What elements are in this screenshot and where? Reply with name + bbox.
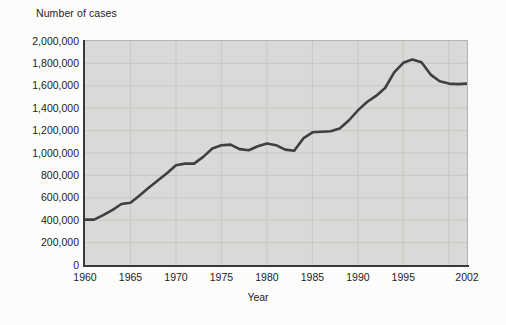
y-tick-label: 1,600,000 (0, 79, 79, 92)
x-tick-label: 1965 (111, 271, 151, 284)
cases-trend-line (85, 60, 467, 220)
cases-trend-svg (85, 41, 467, 265)
y-tick-label: 0 (0, 259, 79, 272)
plot-area (85, 41, 467, 265)
y-tick-label: 1,200,000 (0, 124, 79, 137)
y-tick-label: 1,400,000 (0, 102, 79, 115)
y-axis-title: Number of cases (36, 7, 117, 19)
x-tick-label: 1990 (338, 271, 378, 284)
y-tick-label: 1,800,000 (0, 57, 79, 70)
plot-border-right (467, 40, 468, 266)
x-axis-line (83, 265, 469, 267)
y-tick-label: 1,000,000 (0, 147, 79, 160)
y-tick-label: 2,000,000 (0, 35, 79, 48)
y-tick-label: 600,000 (0, 191, 79, 204)
x-axis-title: Year (238, 291, 278, 303)
x-tick-label: 1975 (201, 271, 241, 284)
y-tick-label: 800,000 (0, 169, 79, 182)
x-tick-label: 1995 (383, 271, 423, 284)
x-tick-label: 1960 (65, 271, 105, 284)
y-tick-label: 200,000 (0, 236, 79, 249)
line-chart-figure: Number of cases 0200,000400,000600,00080… (0, 0, 506, 325)
y-tick-label: 400,000 (0, 214, 79, 227)
x-tick-label: 2002 (447, 271, 487, 284)
x-tick-label: 1970 (156, 271, 196, 284)
x-tick-label: 1980 (247, 271, 287, 284)
y-axis-line (83, 40, 85, 267)
x-tick-label: 1985 (292, 271, 332, 284)
